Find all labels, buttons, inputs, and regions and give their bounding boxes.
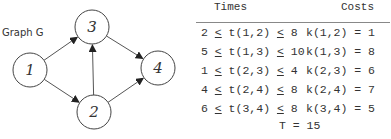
cost-row: k(1,2) = 1 bbox=[306, 26, 375, 39]
svg-text:4: 4 bbox=[152, 59, 163, 77]
header-rule bbox=[196, 22, 390, 23]
time-constraint-row: 1 < t(2,3) < 4 bbox=[201, 64, 298, 77]
node-1: 1 bbox=[13, 53, 47, 87]
cost-row: k(1,3) = 8 bbox=[306, 45, 375, 58]
cost-row: k(3,4) = 5 bbox=[306, 102, 375, 115]
time-constraint-row: 6 < t(3,4) < 8 bbox=[201, 102, 298, 115]
svg-text:1: 1 bbox=[25, 61, 35, 79]
time-constraint-row: 5 < t(1,3) < 10 bbox=[201, 45, 305, 58]
svg-text:2: 2 bbox=[88, 103, 99, 121]
graph-diagram: 1234 bbox=[0, 0, 190, 139]
edge-2-3 bbox=[92, 45, 93, 95]
cost-row: k(2,4) = 7 bbox=[306, 83, 375, 96]
time-constraint-row: 2 < t(1,2) < 8 bbox=[201, 26, 298, 39]
times-header: Times bbox=[214, 1, 247, 13]
total-time: T = 15 bbox=[279, 119, 320, 132]
edge-1-2 bbox=[44, 79, 79, 102]
node-2: 2 bbox=[77, 95, 111, 129]
node-3: 3 bbox=[75, 10, 109, 44]
edge-1-3 bbox=[44, 37, 77, 60]
edge-3-4 bbox=[106, 36, 142, 59]
time-constraint-row: 4 < t(2,4) < 8 bbox=[201, 83, 298, 96]
node-4: 4 bbox=[141, 51, 175, 85]
svg-text:3: 3 bbox=[87, 18, 97, 36]
costs-header: Costs bbox=[341, 1, 374, 13]
cost-row: k(2,3) = 6 bbox=[306, 64, 375, 77]
edge-2-4 bbox=[108, 78, 143, 102]
